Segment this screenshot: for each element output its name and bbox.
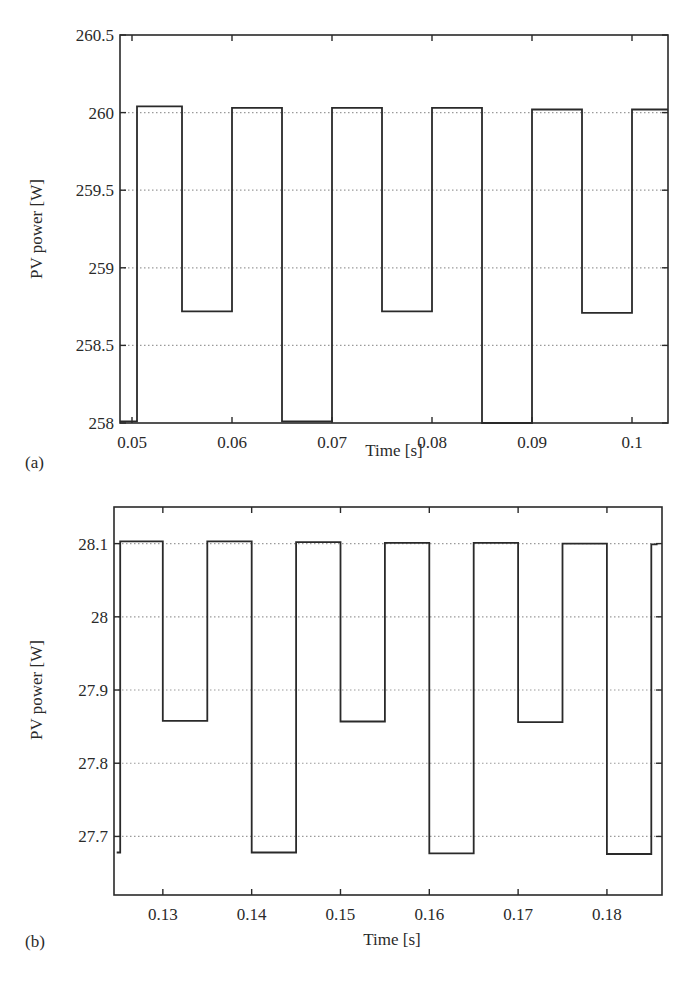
y-tick-label: 27.8 bbox=[78, 754, 108, 773]
plot-frame-b bbox=[114, 507, 662, 895]
y-tick-label: 28 bbox=[91, 608, 108, 627]
y-tick-label: 28.1 bbox=[78, 535, 108, 554]
x-tick-label: 0.14 bbox=[237, 905, 267, 924]
x-tick-label: 0.17 bbox=[503, 905, 533, 924]
y-axis-label-b: PV power [W] bbox=[27, 640, 46, 740]
x-tick-label: 0.18 bbox=[592, 905, 622, 924]
panel-label-b: (b) bbox=[25, 932, 45, 952]
y-tick-label: 27.9 bbox=[78, 681, 108, 700]
axis-ticks-b bbox=[114, 507, 662, 895]
y-tick-label: 27.7 bbox=[78, 827, 108, 846]
x-axis-label-b: Time [s] bbox=[363, 930, 420, 949]
x-tick-label: 0.16 bbox=[414, 905, 444, 924]
x-tick-label: 0.13 bbox=[148, 905, 178, 924]
tick-labels-b: 27.727.827.92828.10.130.140.150.160.170.… bbox=[78, 535, 622, 924]
series-line-b bbox=[117, 541, 658, 854]
pv-power-line bbox=[117, 541, 658, 854]
chart-b-svg: 27.727.827.92828.10.130.140.150.160.170.… bbox=[0, 0, 687, 984]
x-tick-label: 0.15 bbox=[326, 905, 356, 924]
grid-lines-b bbox=[114, 544, 662, 837]
